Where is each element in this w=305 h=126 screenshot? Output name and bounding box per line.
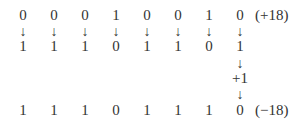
down-arrow-icon: ↓	[232, 24, 248, 39]
original-bit: 0	[15, 8, 31, 23]
down-arrow-icon: ↓	[232, 87, 248, 102]
add-one-label: +1	[228, 71, 252, 86]
inverted-bit: 0	[108, 39, 124, 54]
original-bit: 0	[46, 8, 62, 23]
original-bit: 0	[139, 8, 155, 23]
result-bit: 1	[139, 103, 155, 118]
down-arrow-icon: ↓	[170, 24, 186, 39]
inverted-bit: 1	[232, 39, 248, 54]
inverted-bit: 1	[170, 39, 186, 54]
original-bit: 0	[170, 8, 186, 23]
result-bit: 1	[77, 103, 93, 118]
result-bit: 1	[201, 103, 217, 118]
original-value-label: (+18)	[255, 8, 288, 23]
result-bit: 0	[232, 103, 248, 118]
down-arrow-icon: ↓	[46, 24, 62, 39]
inverted-bit: 1	[77, 39, 93, 54]
inverted-bit: 1	[139, 39, 155, 54]
result-bit: 1	[46, 103, 62, 118]
original-bit: 0	[232, 8, 248, 23]
down-arrow-icon: ↓	[201, 24, 217, 39]
inverted-bit: 1	[15, 39, 31, 54]
result-bit: 0	[108, 103, 124, 118]
original-bit: 1	[108, 8, 124, 23]
down-arrow-icon: ↓	[232, 56, 248, 71]
down-arrow-icon: ↓	[139, 24, 155, 39]
result-bit: 1	[15, 103, 31, 118]
inverted-bit: 0	[201, 39, 217, 54]
original-bit: 1	[201, 8, 217, 23]
down-arrow-icon: ↓	[108, 24, 124, 39]
inverted-bit: 1	[46, 39, 62, 54]
original-bit: 0	[77, 8, 93, 23]
result-value-label: (−18)	[255, 103, 288, 118]
result-bit: 1	[170, 103, 186, 118]
down-arrow-icon: ↓	[77, 24, 93, 39]
down-arrow-icon: ↓	[15, 24, 31, 39]
